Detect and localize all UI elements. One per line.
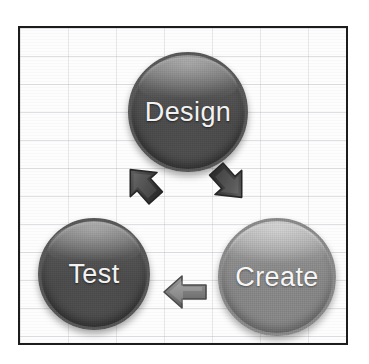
arrow-create-to-test-icon: [160, 271, 212, 313]
node-create-label: Create: [235, 262, 318, 293]
arrow-test-to-design-icon: [118, 161, 172, 211]
node-design[interactable]: Design: [128, 52, 248, 172]
arrow-design-to-create-icon: [200, 156, 254, 206]
diagram-canvas: Design Create Test: [0, 0, 369, 364]
node-design-label: Design: [145, 97, 231, 128]
diagram-frame: Design Create Test: [18, 26, 348, 345]
node-create[interactable]: Create: [218, 218, 336, 336]
node-test[interactable]: Test: [38, 218, 150, 330]
node-test-label: Test: [68, 259, 119, 290]
